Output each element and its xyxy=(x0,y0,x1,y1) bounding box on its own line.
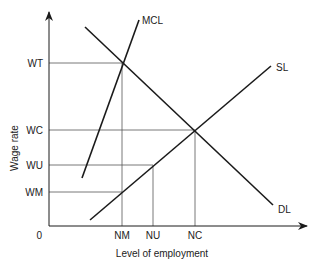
x-tick-nu: NU xyxy=(146,230,160,241)
sl-curve xyxy=(90,66,271,220)
mcl-label: MCL xyxy=(142,15,164,26)
x-tick-nm: NM xyxy=(114,230,130,241)
y-tick-wc: WC xyxy=(26,125,43,136)
y-tick-wu: WU xyxy=(26,160,43,171)
mcl-curve xyxy=(82,20,139,178)
dl-label: DL xyxy=(278,204,291,215)
labour-market-diagram: MCL SL DL WT WC WU WM 0 NM NU NC Level o… xyxy=(0,0,319,269)
y-axis-title: Wage rate xyxy=(9,125,20,171)
sl-label: SL xyxy=(276,62,289,73)
dl-curve xyxy=(85,27,273,205)
guide-lines xyxy=(49,63,195,226)
y-tick-wm: WM xyxy=(25,187,43,198)
x-axis-title: Level of employment xyxy=(116,248,208,259)
x-tick-nc: NC xyxy=(188,230,202,241)
y-tick-wt: WT xyxy=(27,58,43,69)
origin-label: 0 xyxy=(36,230,42,241)
